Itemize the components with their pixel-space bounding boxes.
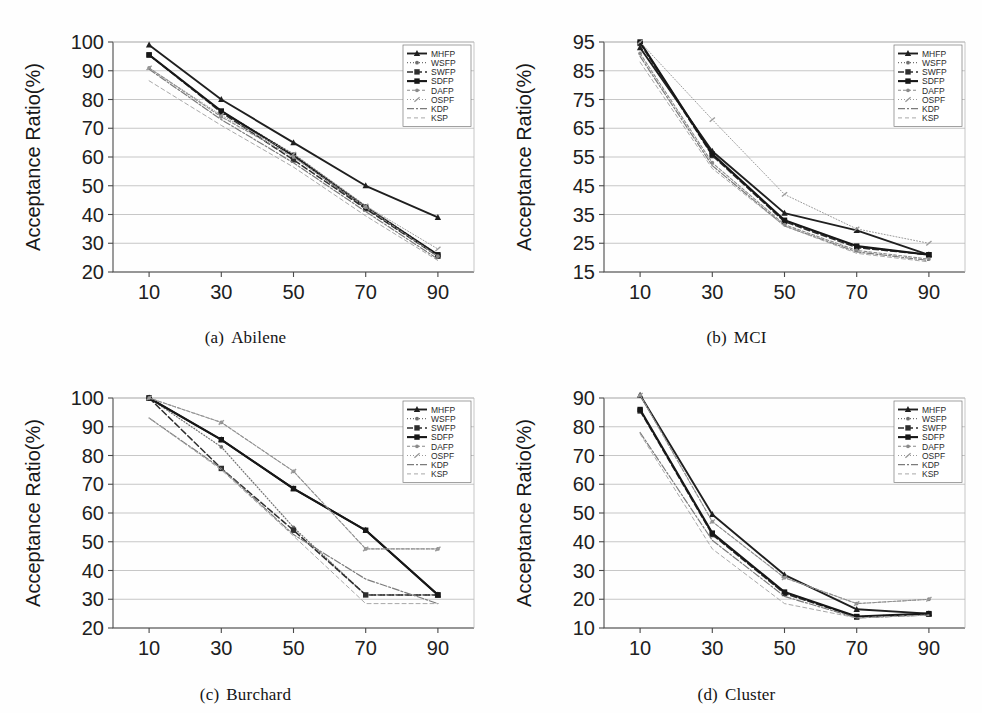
data-marker: [146, 52, 151, 57]
data-marker: [414, 78, 419, 83]
x-axis-ticks: 1030507090: [629, 628, 940, 659]
data-marker: [906, 61, 910, 65]
x-tick-label: 90: [918, 637, 940, 659]
data-marker: [638, 52, 642, 56]
x-tick-label: 50: [282, 281, 304, 303]
chart-d: 1020304050607080901030507090Mean Request…: [491, 356, 982, 666]
y-tick-label: 15: [573, 261, 595, 283]
y-tick-label: 75: [573, 89, 595, 111]
series-line-dafp: [640, 54, 929, 260]
data-marker: [637, 407, 642, 412]
x-axis-ticks: 1030507090: [138, 628, 449, 659]
series-markers-mhfp: [146, 41, 441, 220]
y-tick-label: 95: [573, 31, 595, 53]
chart-svg: 20304050607080901001030507090Mean Reques…: [0, 356, 491, 666]
y-tick-label: 100: [71, 387, 104, 409]
y-axis-ticks: 152535455565758595: [573, 31, 604, 283]
legend: MHFPWSFPSWFPSDFPDAFPOSPFKDPKSP: [403, 401, 471, 483]
data-marker: [905, 434, 910, 439]
y-tick-label: 50: [82, 175, 104, 197]
data-marker: [710, 530, 715, 535]
legend: MHFPWSFPSWFPSDFPDAFPOSPFKDPKSP: [894, 401, 962, 483]
chart-svg: 1020304050607080901030507090Mean Request…: [491, 356, 982, 666]
data-marker: [219, 445, 223, 449]
x-tick-label: 50: [773, 637, 795, 659]
y-axis-ticks: 2030405060708090100: [71, 31, 113, 283]
y-tick-label: 80: [82, 445, 104, 467]
chart-svg: 1525354555657585951030507090Mean Request…: [491, 0, 982, 310]
x-tick-label: 10: [138, 637, 160, 659]
series-group: [146, 395, 441, 604]
y-tick-label: 90: [82, 60, 104, 82]
y-tick-label: 60: [82, 146, 104, 168]
series-group: [637, 392, 932, 620]
figure-grid: 20304050607080901001030507090Mean Reques…: [0, 0, 982, 713]
data-marker: [710, 151, 715, 156]
series-group: [146, 41, 441, 260]
chart-panel-b: 1525354555657585951030507090Mean Request…: [491, 0, 982, 356]
legend: MHFPWSFPSWFPSDFPDAFPOSPFKDPKSP: [403, 45, 471, 127]
x-axis-ticks: 1030507090: [138, 272, 449, 303]
caption-d: (d)Cluster: [491, 685, 982, 705]
y-tick-label: 90: [573, 387, 595, 409]
series-group: [637, 39, 932, 262]
y-tick-label: 70: [82, 473, 104, 495]
chart-panel-d: 1020304050607080901030507090Mean Request…: [491, 356, 982, 713]
caption-name-b: MCI: [734, 328, 767, 347]
y-tick-label: 65: [573, 117, 595, 139]
data-marker: [905, 78, 910, 83]
y-tick-label: 70: [573, 445, 595, 467]
caption-a: (a)Abilene: [0, 328, 491, 348]
x-tick-label: 70: [355, 637, 377, 659]
x-tick-label: 30: [701, 281, 723, 303]
caption-index-a: (a): [205, 328, 224, 347]
legend: MHFPWSFPSWFPSDFPDAFPOSPFKDPKSP: [894, 45, 962, 127]
series-line-ksp: [640, 62, 929, 262]
y-tick-label: 20: [573, 588, 595, 610]
y-axis-ticks: 102030405060708090: [573, 387, 604, 639]
caption-name-a: Abilene: [231, 328, 286, 347]
x-tick-label: 30: [701, 637, 723, 659]
x-tick-label: 90: [427, 637, 449, 659]
caption-index-d: (d): [698, 685, 718, 704]
caption-c: (c)Burchard: [0, 685, 491, 705]
y-tick-label: 60: [573, 473, 595, 495]
legend-label-ksp: KSP: [922, 469, 939, 479]
data-marker: [906, 444, 910, 448]
data-marker: [782, 218, 787, 223]
y-tick-label: 40: [82, 204, 104, 226]
series-line-wsfp: [149, 398, 438, 595]
y-axis-ticks: 2030405060708090100: [71, 387, 113, 639]
x-axis-ticks: 1030507090: [629, 272, 940, 303]
series-line-ksp: [149, 81, 438, 261]
series-line-mhfp: [640, 395, 929, 613]
chart-c: 20304050607080901001030507090Mean Reques…: [0, 356, 491, 666]
data-marker: [414, 434, 419, 439]
series-line-kdp: [149, 418, 438, 603]
series-markers-mhfp: [637, 392, 932, 616]
y-tick-label: 70: [82, 117, 104, 139]
y-tick-label: 60: [82, 502, 104, 524]
chart-b: 1525354555657585951030507090Mean Request…: [491, 0, 982, 310]
data-marker: [415, 417, 419, 421]
x-tick-label: 10: [629, 281, 651, 303]
series-markers-swfp: [146, 395, 440, 597]
y-tick-label: 80: [573, 416, 595, 438]
data-marker: [906, 88, 910, 92]
y-tick-label: 10: [573, 617, 595, 639]
series-line-swfp: [640, 411, 929, 617]
y-tick-label: 80: [82, 89, 104, 111]
chart-panel-a: 20304050607080901001030507090Mean Reques…: [0, 0, 491, 356]
series-line-kdp: [640, 56, 929, 260]
series-markers-sdfp: [146, 395, 440, 597]
chart-a: 20304050607080901001030507090Mean Reques…: [0, 0, 491, 310]
data-marker: [905, 69, 910, 74]
data-marker: [926, 252, 931, 257]
data-marker: [415, 88, 419, 92]
x-tick-label: 30: [210, 281, 232, 303]
chart-panel-c: 20304050607080901001030507090Mean Reques…: [0, 356, 491, 713]
y-tick-label: 55: [573, 146, 595, 168]
data-marker: [219, 437, 224, 442]
y-tick-label: 25: [573, 232, 595, 254]
caption-name-d: Cluster: [725, 685, 776, 704]
